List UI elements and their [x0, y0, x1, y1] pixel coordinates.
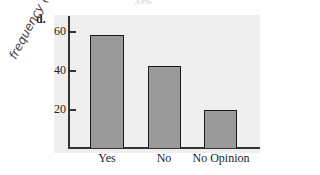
bar-no	[148, 66, 181, 148]
tick-label-20: 20	[50, 102, 66, 117]
bar-no-opinion	[204, 110, 237, 148]
category-no-opinion: No Opinion	[186, 151, 256, 166]
bar-yes	[90, 35, 124, 148]
cut-off-note: 33%	[135, 0, 152, 6]
tick-label-60: 60	[50, 24, 66, 39]
tick-60	[68, 31, 76, 33]
tick-20	[68, 109, 76, 111]
tick-label-40: 40	[50, 63, 66, 78]
tick-40	[68, 70, 76, 72]
y-axis	[68, 16, 70, 148]
